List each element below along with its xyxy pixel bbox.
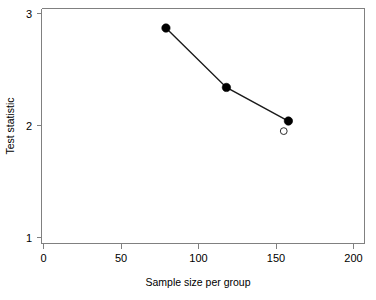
x-tick-label-200: 200 (344, 252, 362, 264)
y-tick-label-1: 1 (26, 232, 32, 244)
reference-markers (280, 128, 287, 135)
data-point-open (280, 128, 287, 135)
series-line (166, 28, 288, 121)
series-group (162, 24, 293, 135)
data-point-filled (222, 83, 230, 91)
y-axis-title: Test statistic (4, 97, 16, 154)
data-point-filled (284, 117, 292, 125)
x-axis-title: Sample size per group (145, 276, 250, 288)
x-tick-label-0: 0 (40, 252, 46, 264)
chart-canvas: 3 2 1 0 50 100 150 200 Sample size per g… (0, 0, 376, 300)
x-tick-label-100: 100 (189, 252, 207, 264)
x-tick-label-50: 50 (115, 252, 127, 264)
data-point-filled (162, 24, 170, 32)
y-tick-label-2: 2 (26, 120, 32, 132)
chart-figure: 3 2 1 0 50 100 150 200 Sample size per g… (0, 0, 376, 300)
series-markers (162, 24, 293, 125)
y-tick-label-3: 3 (26, 8, 32, 20)
plot-frame (42, 9, 365, 244)
x-tick-label-150: 150 (267, 252, 285, 264)
